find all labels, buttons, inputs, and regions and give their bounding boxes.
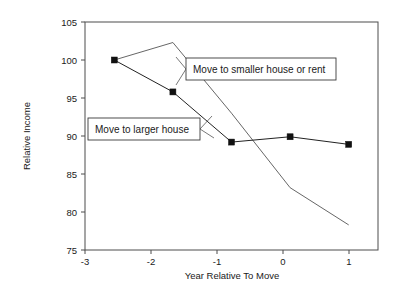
data-point-marker — [287, 134, 293, 140]
chart-page: 105 100 95 90 85 80 75 Relative Income -… — [0, 0, 397, 285]
leader-line-smaller-house — [176, 57, 186, 69]
annotation-label-larger-house: Move to larger house — [95, 124, 189, 135]
relative-income-line-chart: 105 100 95 90 85 80 75 Relative Income -… — [0, 0, 397, 285]
y-tick-label-75: 75 — [66, 245, 77, 256]
y-tick-label-85: 85 — [66, 169, 77, 180]
x-tick-label-minus3: -3 — [81, 256, 89, 267]
y-axis-ticks — [81, 22, 85, 250]
x-axis-title: Year Relative To Move — [185, 270, 280, 281]
x-tick-label-0: 0 — [280, 256, 285, 267]
x-tick-label-minus2: -2 — [147, 256, 155, 267]
x-tick-label-minus1: -1 — [213, 256, 221, 267]
y-tick-label-95: 95 — [66, 93, 77, 104]
y-tick-label-80: 80 — [66, 207, 77, 218]
data-point-marker — [346, 141, 352, 147]
x-axis-ticks — [85, 250, 349, 254]
x-tick-label-1: 1 — [346, 256, 351, 267]
y-tick-label-90: 90 — [66, 131, 77, 142]
y-tick-label-100: 100 — [61, 55, 77, 66]
leader-line-larger-house — [200, 129, 214, 138]
data-point-marker — [229, 139, 235, 145]
leader-line-larger-house-2 — [200, 116, 212, 129]
leader-line-smaller-house-2 — [176, 69, 186, 85]
y-axis-title: Relative Income — [21, 102, 32, 170]
y-tick-label-105: 105 — [61, 17, 77, 28]
data-point-marker — [170, 89, 176, 95]
annotation-label-smaller-house: Move to smaller house or rent — [193, 64, 326, 75]
data-point-marker — [111, 57, 117, 63]
